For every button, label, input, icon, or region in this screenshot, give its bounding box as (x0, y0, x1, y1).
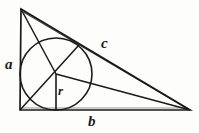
figure-canvas (0, 0, 199, 133)
label-radius-r: r (58, 84, 63, 97)
label-leg-a: a (5, 57, 13, 72)
geometry-figure: a b c r (0, 0, 199, 133)
label-leg-b: b (88, 114, 96, 129)
label-hypotenuse-c: c (101, 36, 108, 51)
